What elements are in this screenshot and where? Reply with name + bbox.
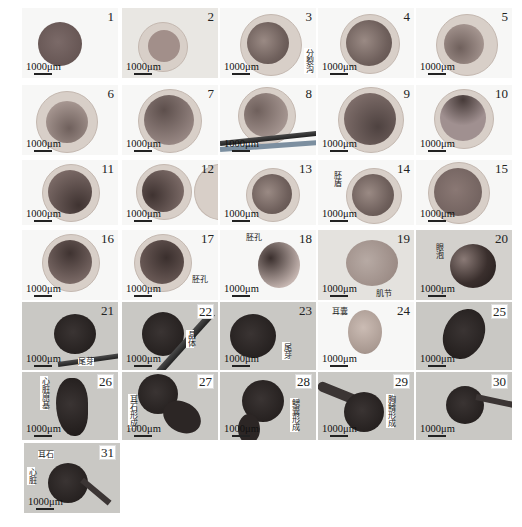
scale-label: 1000μm: [126, 62, 161, 73]
annotation-otolith: 耳石: [38, 451, 54, 459]
annotation-tail-bud: 尾芽: [282, 342, 290, 360]
scale-bar: [36, 508, 54, 510]
annotation-optic-vesicle: 眼泡: [434, 242, 442, 260]
annotation-blastopore: 胚孔: [246, 234, 262, 242]
yolk-image: [247, 22, 289, 64]
panel-26: 26 心脏原基 1000μm: [22, 372, 118, 440]
embryo-image: [54, 314, 96, 354]
panel-number: 17: [201, 232, 214, 245]
scale-label: 1000μm: [322, 354, 357, 365]
scale-label: 1000μm: [126, 139, 161, 150]
embryo-image: [446, 386, 484, 424]
scale-label: 1000μm: [420, 354, 455, 365]
scale-label: 1000μm: [322, 424, 357, 435]
scale-bar: [428, 365, 446, 367]
panel-31: 31 耳石 心脏 1000μm: [24, 443, 120, 513]
panel-number: 7: [208, 87, 215, 100]
scale-label: 1000μm: [26, 424, 61, 435]
scale-bar: [232, 150, 250, 152]
panel-number: 2: [208, 10, 215, 23]
yolk-image: [140, 240, 184, 284]
panel-number: 11: [101, 162, 114, 175]
scale-bar: [34, 365, 52, 367]
panel-22: 22 晶体 1000μm: [122, 302, 218, 370]
panel-2: 2 1000μm: [122, 8, 218, 78]
panel-number: 3: [306, 10, 313, 23]
scale-label: 1000μm: [224, 62, 259, 73]
panel-number: 23: [299, 304, 312, 317]
panel-16: 16 1000μm: [22, 230, 118, 300]
annotation-somite: 肌节: [376, 290, 392, 298]
panel-number: 26: [97, 374, 114, 389]
annotation-lens: 晶体: [186, 330, 194, 348]
yolk-image: [346, 20, 392, 66]
scale-label: 1000μm: [420, 139, 455, 150]
scale-label: 1000μm: [322, 209, 357, 220]
scale-bar: [232, 435, 250, 437]
panel-number: 13: [299, 162, 312, 175]
panel-number: 18: [299, 232, 312, 245]
panel-23: 23 尾芽 1000μm: [220, 302, 316, 370]
scale-bar: [330, 295, 348, 297]
scale-label: 1000μm: [224, 354, 259, 365]
scale-label: 1000μm: [26, 62, 61, 73]
panel-24: 24 耳囊 1000μm: [318, 302, 414, 370]
yolk-image: [258, 242, 300, 288]
panel-number: 28: [295, 374, 312, 389]
panel-number: 25: [491, 304, 508, 319]
scale-label: 1000μm: [26, 284, 61, 295]
scale-label: 1000μm: [420, 284, 455, 295]
scale-bar: [34, 220, 52, 222]
annotation-cleavage-furrow: 分裂沟: [304, 48, 312, 74]
yolk-image: [48, 240, 92, 284]
annotation-heart: 心脏: [27, 467, 35, 485]
panel-30: 30 1000μm: [416, 372, 512, 440]
panel-number: 9: [404, 87, 411, 100]
panel-number: 12: [201, 162, 214, 175]
scale-bar: [34, 295, 52, 297]
panel-28: 28 鳃囊形成 1000μm: [220, 372, 316, 440]
panel-number: 30: [491, 374, 508, 389]
annotation-blastopore: 胚孔: [192, 276, 208, 284]
scale-label: 1000μm: [322, 139, 357, 150]
panel-19: 19 肌节 1000μm: [318, 230, 414, 300]
panel-number: 4: [404, 10, 411, 23]
annotation-otic-vesicle: 耳囊: [332, 308, 348, 316]
scale-bar: [134, 220, 152, 222]
scale-bar: [428, 150, 446, 152]
scale-label: 1000μm: [26, 209, 61, 220]
scale-bar: [330, 220, 348, 222]
scale-bar: [428, 295, 446, 297]
scale-label: 1000μm: [224, 209, 259, 220]
scale-bar: [232, 365, 250, 367]
scale-bar: [134, 435, 152, 437]
panel-number: 10: [495, 87, 508, 100]
panel-5: 5 1000μm: [416, 8, 512, 78]
yolk-image: [244, 93, 288, 137]
panel-7: 7 1000μm: [122, 85, 218, 155]
scale-bar: [34, 435, 52, 437]
scale-label: 1000μm: [126, 354, 161, 365]
yolk-image: [46, 101, 88, 143]
panel-15: 15 1000μm: [416, 160, 512, 225]
scale-bar: [330, 365, 348, 367]
embryo-image: [450, 244, 496, 288]
scale-label: 1000μm: [126, 424, 161, 435]
yolk-image: [142, 170, 184, 212]
panel-29: 29 胸鳍形成 1000μm: [318, 372, 414, 440]
yolk-image: [348, 310, 382, 354]
scale-label: 1000μm: [28, 497, 63, 508]
scale-label: 1000μm: [26, 354, 61, 365]
panel-number: 27: [197, 374, 214, 389]
yolk-image: [148, 30, 180, 62]
panel-number: 15: [495, 162, 508, 175]
panel-number: 20: [495, 232, 508, 245]
scale-bar: [428, 73, 446, 75]
panel-number: 5: [502, 10, 509, 23]
panel-number: 8: [306, 87, 313, 100]
panel-12: 12 1000μm: [122, 160, 218, 225]
panel-25: 25 1000μm: [416, 302, 512, 370]
scale-label: 1000μm: [420, 62, 455, 73]
yolk-image: [346, 240, 398, 286]
panel-20: 20 眼泡 1000μm: [416, 230, 512, 300]
